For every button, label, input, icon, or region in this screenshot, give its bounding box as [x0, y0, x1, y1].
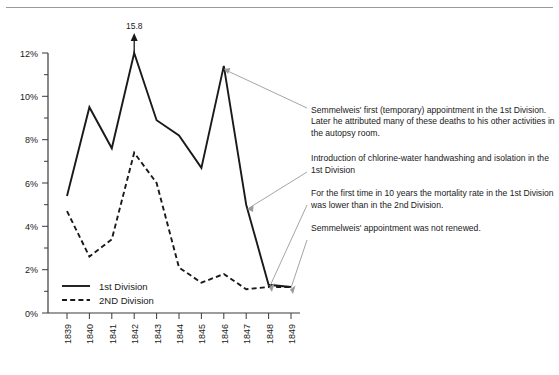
annotation-text-2: For the first time in 10 years the morta…	[311, 188, 555, 211]
chart-figure: 12% 10% 8% 6% 4% 2% 0% 1839	[0, 0, 559, 375]
leader-line-2	[270, 205, 307, 286]
x-tick-label-1845: 1845	[197, 324, 207, 344]
y-tick-label-6: 6%	[25, 179, 38, 189]
line-2nd-division	[67, 153, 291, 290]
y-tick-label-8: 8%	[25, 135, 38, 145]
annotation-text-1: Introduction of chlorine-water handwashi…	[311, 153, 555, 176]
peak-arrow-head-icon	[131, 33, 138, 41]
x-tick-label-1844: 1844	[175, 324, 185, 344]
chart-legend: 1st Division 2ND Division	[62, 281, 154, 306]
y-axis: 12% 10% 8% 6% 4% 2% 0%	[20, 49, 48, 319]
x-tick-label-1839: 1839	[63, 324, 73, 344]
x-tick-label-1847: 1847	[242, 324, 252, 344]
x-tick-label-1843: 1843	[153, 324, 163, 344]
x-tick-label-1849: 1849	[287, 324, 297, 344]
y-tick-label-2: 2%	[25, 265, 38, 275]
line-1st-division	[67, 53, 291, 287]
x-tick-label-1842: 1842	[130, 324, 140, 344]
peak-value-label: 15.8	[126, 21, 143, 31]
x-tick-label-1846: 1846	[220, 324, 230, 344]
series-1st-division	[67, 53, 291, 287]
series-2nd-division	[67, 153, 291, 290]
leader-line-3	[291, 240, 307, 288]
peak-value-annotation: 15.8	[126, 21, 143, 53]
annotation-list: Semmelweis' first (temporary) appointmen…	[311, 105, 555, 234]
y-tick-label-0: 0%	[25, 309, 38, 319]
legend-label-1st-division: 1st Division	[99, 281, 148, 292]
leader-line-1	[249, 172, 307, 208]
x-tick-label-1841: 1841	[108, 324, 118, 344]
x-tick-label-1840: 1840	[85, 324, 95, 344]
annotation-text-0: Semmelweis' first (temporary) appointmen…	[311, 105, 555, 139]
y-tick-label-4: 4%	[25, 222, 38, 232]
y-tick-label-12: 12%	[20, 49, 38, 59]
annotation-text-3: Semmelweis' appointment was not renewed.	[311, 223, 555, 234]
y-axis-ticks	[42, 53, 48, 313]
x-tick-label-1848: 1848	[265, 324, 275, 344]
annotation-leader-lines	[224, 68, 307, 294]
x-axis: 1839 1840 1841 1842 1843 1844 1845 1846 …	[48, 313, 300, 344]
y-tick-label-10: 10%	[20, 92, 38, 102]
legend-label-2nd-division: 2ND Division	[99, 295, 154, 306]
x-axis-ticks	[67, 313, 291, 319]
leader-line-0	[226, 70, 308, 108]
